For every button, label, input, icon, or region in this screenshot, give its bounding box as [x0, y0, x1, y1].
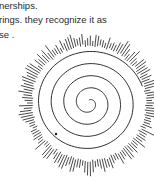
spiral-illustration [14, 28, 154, 182]
text-line-1: nerships. [0, 0, 38, 12]
text-line-3: se . [0, 29, 14, 41]
text-line-2: rings. they recognize it as [0, 14, 107, 26]
spiral-icon [14, 28, 154, 182]
